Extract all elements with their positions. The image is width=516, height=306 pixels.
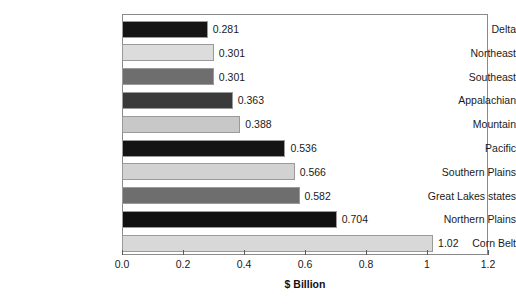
x-tick-mark (122, 250, 123, 255)
bar-track: 0.704 (122, 207, 488, 231)
bar-row: Corn Belt1.02 (0, 231, 516, 255)
bar-row: Pacific0.536 (0, 136, 516, 160)
bar-value-label: 0.704 (337, 207, 368, 231)
bar-row: Southern Plains0.566 (0, 160, 516, 184)
bar-corn-belt (122, 235, 433, 252)
bar-value-label: 0.582 (300, 184, 331, 208)
x-tick-mark (305, 250, 306, 255)
bar-appalachian (122, 92, 233, 109)
x-tick-mark (427, 250, 428, 255)
x-tick-label: 0.8 (359, 258, 374, 270)
bar-value-label: 0.301 (214, 41, 245, 65)
bar-value-label: 1.02 (433, 231, 458, 255)
bar-track: 0.582 (122, 184, 488, 208)
bar-northern-plains (122, 211, 337, 228)
bar-value-label: 0.566 (295, 160, 326, 184)
x-axis-title: $ Billion (122, 278, 488, 290)
bar-delta (122, 21, 208, 38)
x-tick-label: 1 (424, 258, 430, 270)
bar-row: Northern Plains0.704 (0, 207, 516, 231)
x-tick-mark (183, 250, 184, 255)
bar-great-lakes-states (122, 187, 300, 204)
bar-mountain (122, 116, 240, 133)
bar-track: 0.301 (122, 41, 488, 65)
x-tick-label: 1.2 (481, 258, 496, 270)
x-tick-label: 0.6 (298, 258, 313, 270)
x-tick-mark (244, 250, 245, 255)
bar-row: Great Lakes states0.582 (0, 184, 516, 208)
bar-row: Appalachian0.363 (0, 88, 516, 112)
x-tick-label: 0.4 (237, 258, 252, 270)
bar-chart: Delta0.281Northeast0.301Southeast0.301Ap… (0, 0, 516, 306)
bar-row: Delta0.281 (0, 17, 516, 41)
bar-track: 0.566 (122, 160, 488, 184)
bar-southern-plains (122, 163, 295, 180)
bar-southeast (122, 68, 214, 85)
bar-row: Southeast0.301 (0, 65, 516, 89)
bar-row: Mountain0.388 (0, 112, 516, 136)
bar-track: 0.281 (122, 17, 488, 41)
x-tick-mark (488, 250, 489, 255)
x-tick-mark (366, 250, 367, 255)
bar-value-label: 0.281 (208, 17, 239, 41)
bar-pacific (122, 140, 285, 157)
x-tick-label: 0.0 (115, 258, 130, 270)
bar-track: 0.536 (122, 136, 488, 160)
bar-value-label: 0.301 (214, 65, 245, 89)
bar-track: 0.363 (122, 88, 488, 112)
bar-northeast (122, 44, 214, 61)
bar-value-label: 0.363 (233, 88, 264, 112)
bar-track: 0.301 (122, 65, 488, 89)
bar-track: 0.388 (122, 112, 488, 136)
bar-value-label: 0.388 (240, 112, 271, 136)
x-tick-label: 0.2 (176, 258, 191, 270)
bar-value-label: 0.536 (285, 136, 316, 160)
bar-row: Northeast0.301 (0, 41, 516, 65)
